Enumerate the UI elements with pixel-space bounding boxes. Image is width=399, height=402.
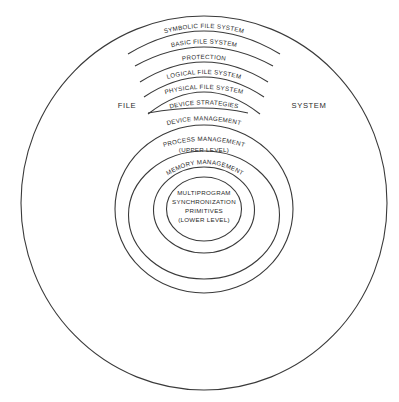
ring-process-management	[129, 151, 280, 279]
layered-os-diagram: SYMBOLIC FILE SYSTEM BASIC FILE SYSTEM P…	[0, 0, 399, 402]
label-system: SYSTEM	[292, 101, 327, 110]
label-file: FILE	[118, 101, 136, 110]
label-process-upper-level: (UPPER LEVEL)	[179, 146, 229, 153]
label-physical-file-system: PHYSICAL FILE SYSTEM	[164, 83, 245, 95]
label-logical-file-system: LOGICAL FILE SYSTEM	[166, 68, 242, 80]
core-line-3: PRIMITIVES	[185, 207, 223, 214]
core-line-4: (LOWER LEVEL)	[178, 216, 230, 223]
core-line-2: SYNCHRONIZATION	[172, 198, 236, 205]
core-line-1: MULTIPROGRAM	[177, 189, 231, 196]
label-protection: PROTECTION	[181, 53, 226, 62]
label-symbolic-file-system: SYMBOLIC FILE SYSTEM	[163, 22, 245, 34]
arc-device-strategies	[148, 108, 248, 113]
